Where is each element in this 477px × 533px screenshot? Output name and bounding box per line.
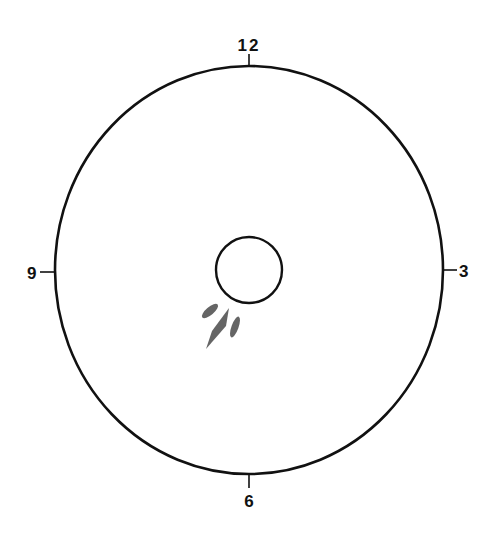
label-9: 9 [27, 264, 36, 283]
clock-diagram: 12 3 6 9 [0, 0, 477, 533]
impact-marks [200, 302, 242, 349]
outer-ring [55, 66, 443, 474]
mark-right-streak [228, 315, 242, 338]
label-12: 12 [238, 36, 261, 55]
label-3: 3 [459, 262, 468, 281]
mark-upper-left [200, 302, 220, 321]
label-6: 6 [244, 492, 253, 511]
center-circle [216, 237, 282, 303]
